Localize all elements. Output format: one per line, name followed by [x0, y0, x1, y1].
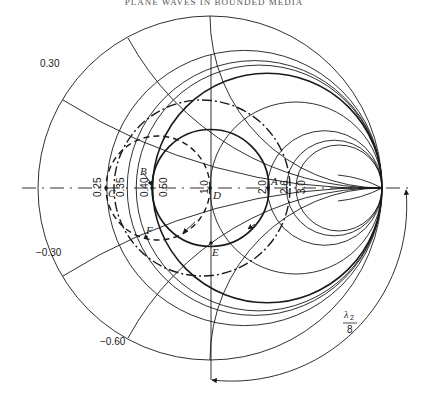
r-label-0.40: 0.40: [139, 177, 150, 197]
r-label-0.35: 0.35: [115, 177, 126, 197]
label-B: B: [140, 165, 147, 177]
r-label-2.0: 2.0: [257, 180, 268, 194]
label-A: A: [270, 175, 278, 187]
lambda-over-8-label: λ 2 8: [343, 309, 357, 335]
x-label-minus-0.30: −0.30: [36, 247, 62, 258]
lambda-subscript: 2: [350, 314, 354, 321]
r-label-2.6: 2.6: [279, 180, 290, 194]
r-label-0.25: 0.25: [92, 177, 103, 197]
label-D: D: [212, 189, 221, 201]
x-label-plus-0.30: 0.30: [40, 58, 60, 69]
label-C: C: [108, 187, 116, 199]
label-E: E: [211, 246, 219, 258]
arrow-dashed: [183, 222, 195, 233]
r-label-3.0: 3.0: [296, 180, 307, 194]
point-B: [150, 186, 154, 190]
x-label-minus-0.60: −0.60: [100, 336, 126, 347]
lambda-denominator: 8: [347, 324, 353, 335]
point-E: [209, 241, 213, 245]
label-F: F: [145, 224, 153, 236]
r-label-1.0: 1.0: [199, 180, 210, 194]
r-label-0.50: 0.50: [158, 177, 169, 197]
smith-chart-diagram: 0.25 0.35 0.40 0.50 1.0 2.0 2.6 3.0 0.30…: [0, 0, 428, 396]
lambda-symbol: λ: [343, 309, 349, 320]
